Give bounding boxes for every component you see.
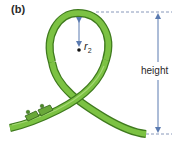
panel-label: (b) (11, 3, 25, 15)
height-label: height (141, 65, 168, 76)
radius-label: r2 (84, 40, 92, 54)
radius-subscript: 2 (88, 47, 92, 54)
center-dot (77, 48, 81, 52)
